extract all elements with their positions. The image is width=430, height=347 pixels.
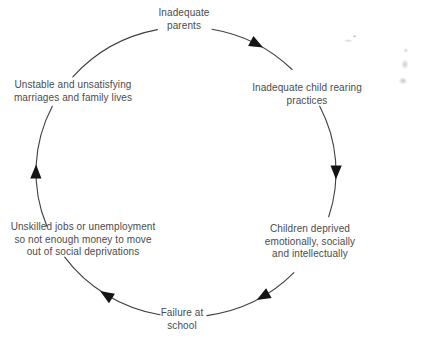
arrowhead-icon [330, 165, 341, 179]
cycle-arc-left [36, 106, 52, 226]
arrowhead-icon [254, 288, 272, 305]
node-failure-at-school: Failure at school [161, 307, 204, 332]
cycle-arc-top-left [73, 30, 158, 77]
cycle-arc-top-right [212, 29, 292, 69]
node-child-rearing-practices: Inadequate child rearing practices [252, 82, 362, 107]
arrowhead-icon [97, 286, 115, 303]
node-inadequate-parents: Inadequate parents [158, 7, 209, 32]
cycle-of-deprivation-diagram: Inadequate parents Inadequate child rear… [0, 0, 430, 347]
node-unskilled-jobs: Unskilled jobs or unemployment so not en… [11, 221, 156, 259]
cycle-arcs [0, 0, 430, 347]
node-children-deprived: Children deprived emotionally, socially … [265, 223, 355, 261]
cycle-arc-bottom-left [65, 257, 160, 315]
cycle-arc-bottom-right [207, 273, 294, 316]
arrowhead-icon [30, 164, 41, 178]
node-unstable-marriages: Unstable and unsatisfying marriages and … [14, 79, 132, 104]
arrowhead-icon [248, 36, 266, 52]
cycle-arc-right [320, 106, 336, 217]
